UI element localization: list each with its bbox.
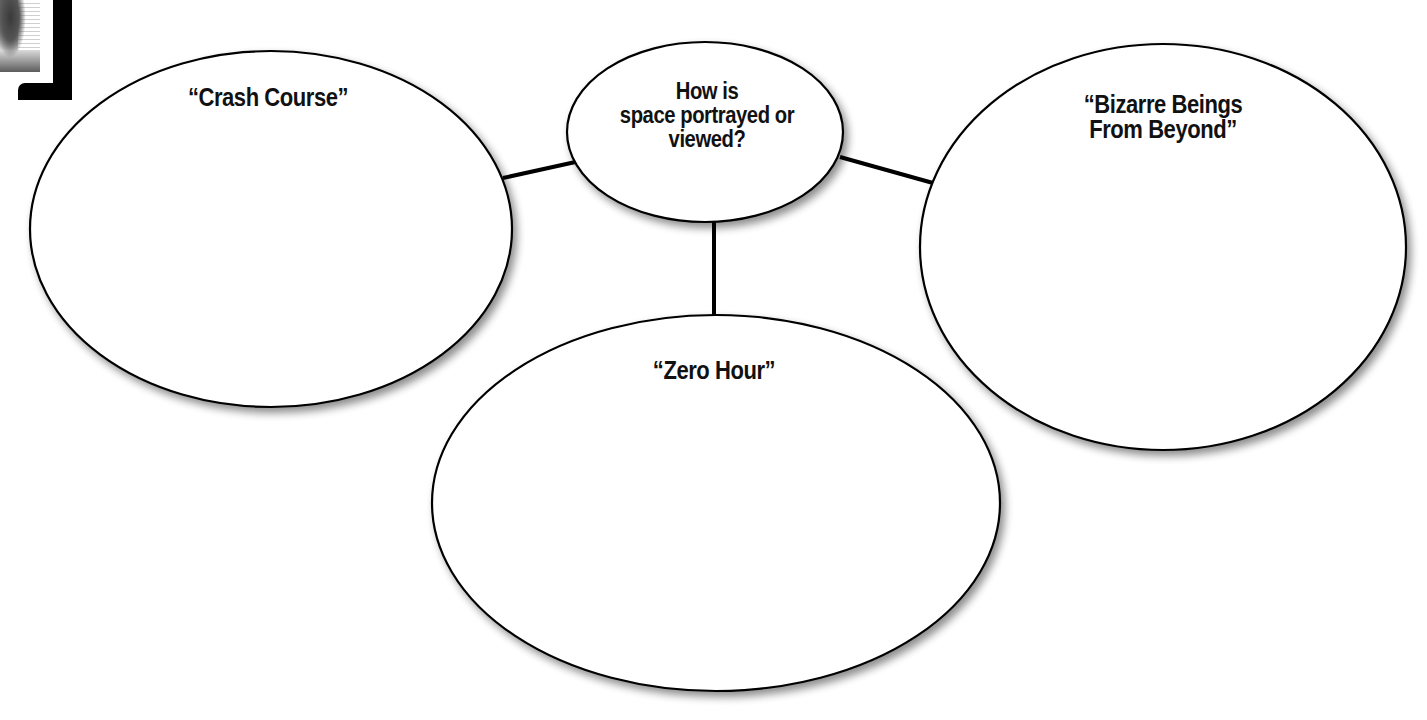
connector-left	[503, 161, 580, 178]
node-right-title-line-1: “Bizarre Beings	[1084, 92, 1242, 117]
node-right-title-line-2: From Beyond”	[1084, 117, 1242, 142]
center-question-line-2: space portrayed or	[620, 103, 794, 127]
center-question-line-3: viewed?	[620, 127, 794, 151]
node-left-title: “Crash Course”	[188, 85, 348, 110]
node-right-title: “Bizarre Beings From Beyond”	[1084, 92, 1242, 142]
illustration-thumbnail	[0, 0, 40, 72]
node-left-title-line-1: “Crash Course”	[188, 85, 348, 110]
thumbnail-figure	[0, 0, 26, 58]
node-bottom-title-line-1: “Zero Hour”	[653, 358, 775, 383]
corner-bracket-horizontal	[18, 83, 72, 100]
center-question: How is space portrayed or viewed?	[620, 79, 794, 151]
center-question-line-1: How is	[620, 79, 794, 103]
node-bottom-title: “Zero Hour”	[653, 358, 775, 383]
connector-right	[840, 157, 933, 183]
